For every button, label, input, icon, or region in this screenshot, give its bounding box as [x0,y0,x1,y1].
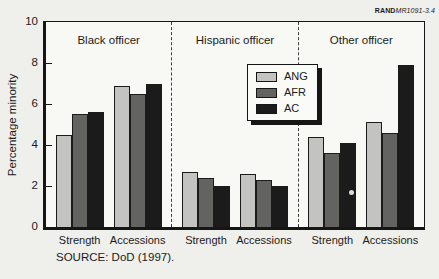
bar-afr [130,94,146,227]
legend-swatch-afr [256,88,277,98]
x-category-label: Accessions [362,234,418,246]
legend: ANGAFRAC [247,64,318,121]
y-axis-title: Percentage minority [6,74,18,176]
panel-hispanic-officer: Hispanic officerStrengthAccessions [172,22,298,227]
x-category-label: Strength [59,234,101,246]
legend-label: AFR [284,87,306,98]
bar-ang [308,137,324,227]
x-category-label: Accessions [110,234,166,246]
bar-afr [198,178,214,227]
bar-ac [88,112,104,227]
bar-ang [114,86,130,227]
source-note: SOURCE: DoD (1997). [56,251,174,263]
bar-ang [240,174,256,227]
y-tick-label: 6 [16,98,38,110]
legend-row-ac: AC [256,103,308,114]
bar-group-accessions: Accessions [366,65,414,227]
panel-other-officer: Other officerStrengthAccessions [299,22,424,227]
legend-swatch-ang [256,72,277,82]
bar-ac [272,186,288,227]
bar-group-accessions: Accessions [240,174,288,227]
bar-ac [398,65,414,227]
rand-logo-text: RAND [375,7,396,14]
panel-black-officer: Black officerStrengthAccessions [46,22,172,227]
y-tick-label: 2 [16,180,38,192]
y-tick-label: 10 [16,16,38,28]
bar-ang [56,135,72,227]
figure: RANDMR1091-3.4 Percentage minority 02468… [0,0,439,279]
bar-afr [72,114,88,227]
figure-id-label: RANDMR1091-3.4 [375,7,435,14]
bar-group-strength: Strength [308,137,356,227]
y-tick-label: 8 [16,57,38,69]
legend-label: AC [284,103,299,114]
panel-title: Black officer [46,34,171,46]
bar-afr [324,153,340,227]
bar-group-strength: Strength [56,112,104,227]
panels-container: Black officerStrengthAccessionsHispanic … [46,22,424,227]
bar-ac [146,84,162,228]
bar-afr [256,180,272,227]
scan-artifact-dot [349,190,354,195]
panel-title: Hispanic officer [172,34,297,46]
bar-group-accessions: Accessions [114,84,162,228]
figure-number-text: MR1091-3.4 [395,7,435,14]
x-category-label: Strength [185,234,227,246]
bar-group-strength: Strength [182,172,230,227]
legend-swatch-ac [256,104,277,114]
bar-afr [382,133,398,227]
bar-ac [340,143,356,227]
x-category-label: Accessions [236,234,292,246]
legend-row-ang: ANG [256,71,308,82]
bar-ang [366,122,382,227]
legend-label: ANG [284,71,308,82]
y-tick-label: 4 [16,139,38,151]
panel-title: Other officer [299,34,424,46]
bar-ang [182,172,198,227]
bar-ac [214,186,230,227]
y-tick-label: 0 [16,221,38,233]
plot-area: 0246810 Black officerStrengthAccessionsH… [43,21,425,230]
legend-row-afr: AFR [256,87,308,98]
x-category-label: Strength [312,234,354,246]
